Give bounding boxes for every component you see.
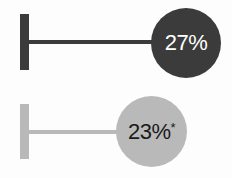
row-2-value-circle: 23%* bbox=[116, 96, 187, 167]
row-2-value-label: 23% bbox=[128, 119, 171, 145]
lollipop-chart: 27% 23%* bbox=[0, 0, 232, 178]
row-1-value-circle: 27% bbox=[151, 8, 221, 78]
row-1-stem bbox=[28, 40, 158, 44]
row-1-value-label: 27% bbox=[165, 30, 208, 56]
row-2-stem bbox=[28, 130, 123, 134]
row-2-footnote-marker: * bbox=[170, 120, 175, 135]
